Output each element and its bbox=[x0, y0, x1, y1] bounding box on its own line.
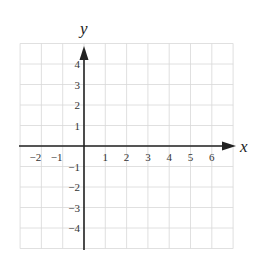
y-tick-label: −3 bbox=[68, 202, 80, 214]
y-tick-label: −4 bbox=[68, 222, 80, 234]
x-tick-label: 2 bbox=[124, 151, 130, 163]
y-tick-label: 3 bbox=[75, 79, 81, 91]
axes bbox=[19, 46, 236, 250]
x-tick-label: −1 bbox=[51, 151, 63, 163]
x-tick-label: 5 bbox=[188, 151, 194, 163]
x-tick-label: −2 bbox=[30, 151, 42, 163]
x-tick-label: 4 bbox=[166, 151, 172, 163]
x-tick-labels: −2−1123456 bbox=[30, 151, 216, 163]
y-axis-arrow-icon bbox=[80, 46, 89, 60]
x-tick-label: 6 bbox=[209, 151, 215, 163]
y-tick-label: 4 bbox=[75, 58, 81, 70]
x-axis-arrow-icon bbox=[222, 142, 236, 151]
x-tick-label: 3 bbox=[145, 151, 151, 163]
y-tick-label: −1 bbox=[68, 161, 80, 173]
x-axis-label: x bbox=[239, 137, 248, 156]
coordinate-plane: −2−1123456 4321−1−2−3−4 x y bbox=[0, 0, 267, 267]
x-tick-label: 1 bbox=[103, 151, 109, 163]
y-tick-label: −2 bbox=[68, 181, 80, 193]
y-tick-label: 1 bbox=[75, 120, 81, 132]
y-tick-label: 2 bbox=[75, 99, 81, 111]
y-axis-label: y bbox=[78, 19, 88, 38]
